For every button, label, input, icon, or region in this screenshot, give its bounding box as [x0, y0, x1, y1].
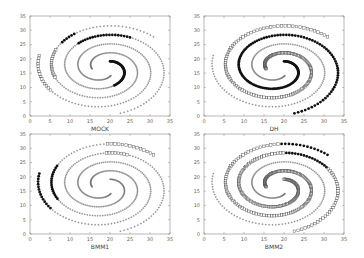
- data-point: [136, 146, 139, 149]
- data-point: [307, 166, 309, 168]
- data-point: [68, 51, 70, 53]
- data-point: [228, 211, 230, 213]
- data-point: [156, 91, 158, 93]
- data-point: [149, 196, 151, 198]
- data-point: [212, 173, 214, 175]
- data-point: [226, 91, 228, 93]
- data-point: [120, 44, 122, 46]
- data-point: [38, 73, 41, 76]
- data-point: [78, 185, 80, 187]
- data-point: [123, 35, 126, 38]
- data-point: [296, 162, 298, 164]
- x-tick-label: 25: [127, 236, 133, 242]
- data-point: [127, 88, 129, 90]
- data-point: [91, 165, 93, 167]
- data-point: [275, 224, 277, 226]
- y-tick-label: 30: [20, 27, 26, 33]
- data-point: [291, 34, 294, 37]
- x-tick-label: 30: [147, 118, 153, 124]
- data-point: [129, 27, 131, 29]
- data-point: [145, 43, 147, 45]
- data-point: [114, 104, 116, 106]
- data-point: [114, 213, 116, 215]
- data-point: [320, 202, 322, 204]
- data-point: [214, 194, 216, 196]
- data-point: [66, 156, 68, 158]
- data-point: [96, 26, 98, 28]
- data-point: [284, 25, 287, 28]
- data-point: [326, 153, 329, 156]
- data-point: [86, 96, 88, 98]
- data-point: [66, 173, 68, 175]
- data-point: [146, 60, 148, 62]
- data-point: [149, 76, 151, 78]
- data-point: [297, 220, 299, 222]
- data-point: [123, 153, 126, 156]
- data-point: [278, 96, 281, 99]
- data-point: [120, 230, 122, 232]
- data-point: [130, 204, 132, 206]
- data-point: [90, 47, 92, 49]
- data-point: [252, 222, 254, 224]
- data-point: [324, 69, 326, 71]
- data-point: [322, 198, 324, 200]
- data-point: [135, 49, 137, 51]
- data-point: [85, 168, 87, 170]
- data-point: [49, 207, 52, 210]
- data-point: [86, 205, 88, 207]
- y-tick-label: 5: [23, 217, 26, 223]
- x-tick-label: 0: [202, 118, 205, 124]
- data-point: [239, 173, 242, 176]
- data-point: [268, 224, 270, 226]
- data-point: [37, 68, 40, 71]
- data-point: [233, 214, 235, 216]
- data-point: [279, 43, 281, 45]
- data-point: [291, 221, 293, 223]
- data-point: [255, 104, 257, 106]
- data-point: [133, 28, 135, 30]
- data-point: [72, 79, 74, 81]
- data-point: [116, 212, 118, 214]
- x-tick-label: 10: [241, 236, 247, 242]
- data-point: [64, 185, 66, 187]
- data-point: [293, 112, 296, 115]
- data-point: [265, 196, 267, 198]
- data-point: [224, 207, 226, 209]
- data-point: [233, 43, 236, 46]
- data-point: [266, 79, 268, 81]
- data-point: [86, 37, 89, 40]
- data-point: [136, 29, 138, 31]
- data-point: [85, 50, 87, 52]
- data-point: [38, 191, 41, 194]
- data-point: [269, 26, 272, 29]
- data-point: [97, 153, 99, 155]
- data-point: [62, 216, 64, 218]
- data-point: [212, 57, 214, 59]
- scatter-panel-bmm1: 0055101015152020252530303535BMM1: [20, 131, 174, 250]
- data-point: [160, 58, 162, 60]
- data-point: [255, 222, 257, 224]
- data-point: [74, 221, 76, 223]
- data-point: [297, 35, 300, 38]
- data-point: [322, 64, 324, 66]
- data-point: [264, 78, 266, 80]
- data-point: [149, 194, 151, 196]
- data-point: [153, 168, 155, 170]
- data-point: [54, 211, 56, 213]
- y-tick-label: 15: [194, 70, 200, 76]
- data-point: [68, 219, 70, 221]
- data-point: [257, 95, 260, 98]
- data-point: [111, 43, 113, 45]
- data-point: [284, 178, 287, 181]
- data-point: [336, 76, 339, 79]
- data-point: [135, 214, 137, 216]
- scatter-panel-mock: 0055101015152020252530303535MOCK: [20, 13, 174, 132]
- data-point: [123, 111, 125, 113]
- data-point: [138, 52, 140, 54]
- data-point: [133, 215, 135, 217]
- data-point: [105, 34, 108, 37]
- x-tick-label: 35: [167, 236, 173, 242]
- data-point: [291, 152, 294, 155]
- data-point: [157, 54, 159, 56]
- y-tick-label: 10: [20, 202, 26, 208]
